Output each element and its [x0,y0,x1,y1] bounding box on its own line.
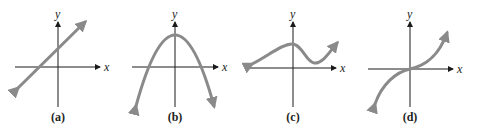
y-axis-label: y [171,7,178,21]
graph-b: x y (b) [132,7,228,124]
y-axis-label: y [289,7,296,21]
caption-b: (b) [168,110,183,124]
graph-d: x y (d) [368,7,463,124]
wavy-curve [252,43,337,64]
function-graphs-figure: x y (a) x y (b) x y (c) x y (d) [0,0,477,131]
caption-c: (c) [286,110,299,124]
graph-c: x y (c) [250,7,346,124]
x-axis-label: x [221,60,228,74]
y-axis-label: y [406,7,413,21]
caption-a: (a) [51,110,65,124]
x-axis-label: x [456,62,463,76]
caption-d: (d) [403,110,418,124]
graph-a: x y (a) [15,7,110,124]
linear-curve [18,22,85,88]
x-axis-label: x [339,61,346,75]
y-axis-label: y [54,7,61,21]
x-axis-label: x [103,60,110,74]
